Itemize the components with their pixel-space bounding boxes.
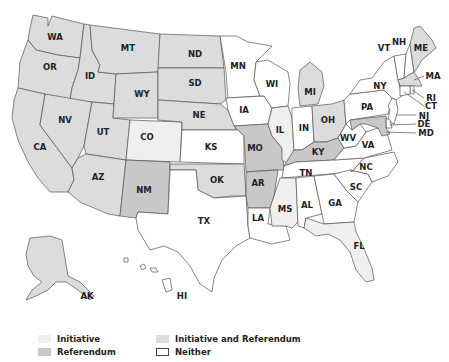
label-WY: WY <box>134 89 150 99</box>
label-IN: IN <box>299 123 309 133</box>
state-IA[interactable] <box>226 96 272 126</box>
us-states-map: WA OR CA ID NV UT AZ MT WY CO NM ND SD N… <box>0 0 449 320</box>
label-MA: MA <box>425 71 440 81</box>
label-SC: SC <box>350 182 362 192</box>
legend-swatch-initiative-and-referendum <box>156 335 169 343</box>
label-ME: ME <box>414 43 428 53</box>
label-AR: AR <box>251 178 265 188</box>
label-LA: LA <box>252 213 264 223</box>
label-WA: WA <box>47 32 63 42</box>
legend-swatch-neither <box>156 348 169 356</box>
label-PA: PA <box>361 102 373 112</box>
label-VT: VT <box>378 43 391 53</box>
label-SD: SD <box>188 78 201 88</box>
state-CO[interactable] <box>126 120 182 162</box>
label-NC: NC <box>359 162 372 172</box>
label-UT: UT <box>97 127 110 137</box>
legend-item-neither: Neither <box>156 347 211 357</box>
label-MT: MT <box>121 43 135 53</box>
label-MS: MS <box>278 204 293 214</box>
legend-item-initiative-and-referendum: Initiative and Referendum <box>156 334 301 344</box>
legend-row-2: Referendum Neither <box>38 345 301 358</box>
label-ND: ND <box>188 49 202 59</box>
label-ID: ID <box>85 71 95 81</box>
label-CA: CA <box>34 142 47 152</box>
label-MI: MI <box>304 87 316 97</box>
label-AL: AL <box>301 200 314 210</box>
state-HI[interactable] <box>124 258 172 292</box>
label-NH: NH <box>392 37 406 47</box>
label-FL: FL <box>353 241 365 251</box>
label-NV: NV <box>58 115 72 125</box>
label-WI: WI <box>266 79 279 89</box>
label-VA: VA <box>362 140 375 150</box>
legend-label-referendum: Referendum <box>57 347 116 357</box>
legend-swatch-initiative <box>38 335 51 343</box>
label-KS: KS <box>205 142 218 152</box>
label-OK: OK <box>210 175 224 185</box>
label-NY: NY <box>373 81 387 91</box>
label-GA: GA <box>328 198 342 208</box>
map-legend: Initiative Initiative and Referendum Ref… <box>38 332 301 358</box>
label-TN: TN <box>300 168 313 178</box>
label-AK: AK <box>80 291 94 301</box>
legend-swatch-referendum <box>38 348 51 356</box>
state-CT[interactable] <box>400 86 410 96</box>
legend-item-initiative: Initiative <box>38 334 156 344</box>
label-MN: MN <box>230 61 246 71</box>
state-MI[interactable] <box>298 62 324 106</box>
label-KY: KY <box>312 147 326 157</box>
label-OH: OH <box>321 115 335 125</box>
legend-label-neither: Neither <box>175 347 211 357</box>
label-IA: IA <box>239 105 249 115</box>
legend-row-1: Initiative Initiative and Referendum <box>38 332 301 345</box>
label-OR: OR <box>43 62 57 72</box>
legend-label-initiative: Initiative <box>57 334 100 344</box>
label-CT: CT <box>425 101 437 111</box>
label-NM: NM <box>136 185 152 195</box>
label-AZ: AZ <box>92 172 105 182</box>
label-IL: IL <box>276 125 285 135</box>
legend-item-referendum: Referendum <box>38 347 156 357</box>
label-MO: MO <box>247 143 263 153</box>
label-NE: NE <box>193 110 206 120</box>
label-WV: WV <box>340 133 356 143</box>
label-CO: CO <box>140 132 153 142</box>
label-TX: TX <box>198 216 211 226</box>
state-AZ[interactable] <box>68 154 126 216</box>
label-HI: HI <box>177 291 187 301</box>
legend-label-initiative-and-referendum: Initiative and Referendum <box>175 334 301 344</box>
leader-line-md <box>386 132 416 133</box>
label-MD: MD <box>418 128 434 138</box>
